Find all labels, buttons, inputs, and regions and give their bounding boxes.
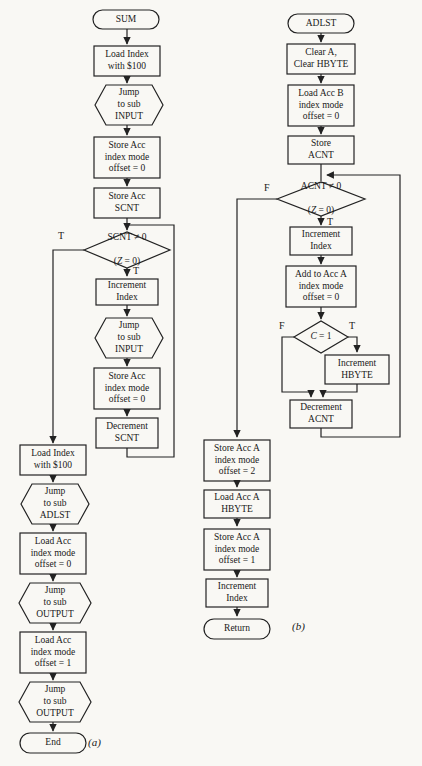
terminal-adlst bbox=[288, 14, 354, 33]
process-load-index-100-2 bbox=[20, 445, 86, 475]
decision-scnt-shape bbox=[84, 232, 170, 268]
process-load-acc-a-hbyte bbox=[204, 490, 270, 518]
process-increment-index-b1 bbox=[290, 227, 352, 255]
process-store-acc-scnt bbox=[94, 188, 160, 218]
process-increment-index-a bbox=[96, 279, 158, 305]
connector-loop-b bbox=[321, 175, 400, 437]
process-increment-hbyte bbox=[325, 355, 389, 384]
branch-acnt-true-label: T bbox=[327, 217, 333, 227]
terminal-return bbox=[204, 619, 270, 639]
process-store-acc-a-offset2 bbox=[204, 440, 270, 481]
process-load-acc-offset0 bbox=[20, 533, 86, 574]
process-store-acc-offset0-1 bbox=[94, 137, 160, 178]
connector-loop-a bbox=[127, 225, 174, 457]
branch-scnt-true-label: T bbox=[133, 266, 139, 276]
flowchart-figure: SUM Load Index with $100 Jump to sub INP… bbox=[0, 0, 422, 766]
branch-acnt-false-label: F bbox=[264, 183, 270, 193]
decision-acnt-shape bbox=[277, 182, 365, 216]
subroutine-jump-input-2 bbox=[95, 318, 163, 358]
caption-a: (a) bbox=[88, 736, 101, 748]
terminal-end bbox=[20, 733, 86, 753]
decision-carry-shape bbox=[294, 321, 348, 353]
process-store-acc-offset0-2 bbox=[94, 368, 160, 409]
process-decrement-acnt bbox=[290, 400, 352, 428]
terminal-sum bbox=[93, 10, 159, 29]
connector-acnt-exit bbox=[237, 199, 277, 437]
process-load-index-100-1 bbox=[94, 46, 160, 76]
branch-scnt-exit-label: T bbox=[58, 231, 64, 241]
connector-carry-true bbox=[348, 337, 357, 352]
process-add-acc-a-offset0 bbox=[286, 266, 356, 307]
branch-carry-false-label: F bbox=[279, 321, 285, 331]
process-load-acc-b-offset0 bbox=[288, 85, 354, 126]
branch-carry-true-label: T bbox=[349, 321, 355, 331]
subroutine-jump-output-2 bbox=[19, 682, 91, 722]
connector-carry-false bbox=[282, 337, 311, 397]
process-store-acc-a-offset1 bbox=[204, 529, 270, 570]
process-load-acc-offset1 bbox=[20, 632, 86, 673]
process-store-acnt bbox=[288, 136, 354, 164]
caption-b: (b) bbox=[292, 620, 305, 632]
process-decrement-scnt bbox=[96, 418, 158, 448]
connector-scnt-exit bbox=[53, 250, 84, 443]
flowchart-canvas bbox=[0, 0, 422, 766]
process-clear-a-hbyte bbox=[287, 44, 355, 74]
subroutine-jump-output-1 bbox=[19, 583, 91, 623]
subroutine-jump-adlst bbox=[21, 484, 89, 524]
process-increment-index-b2 bbox=[206, 579, 268, 607]
subroutine-jump-input-1 bbox=[95, 85, 163, 125]
connector-hbyte-merge bbox=[323, 384, 357, 397]
